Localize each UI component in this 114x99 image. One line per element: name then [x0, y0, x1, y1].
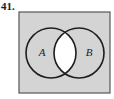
- venn-diagram: A B: [0, 0, 114, 99]
- set-a-label: A: [38, 46, 46, 58]
- set-b-label: B: [86, 46, 93, 58]
